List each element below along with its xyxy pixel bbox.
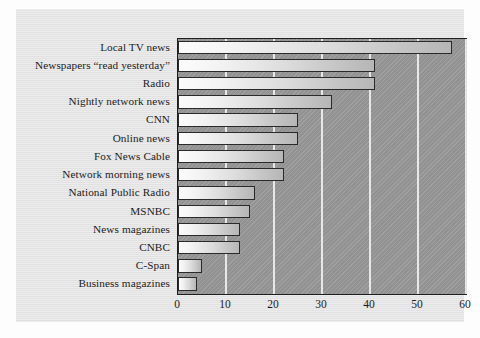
y-axis-label: Network morning news [30, 168, 170, 180]
bar-row [178, 185, 466, 203]
y-axis-label: National Public Radio [30, 186, 170, 198]
y-axis-label: Newspapers “read yesterday” [30, 59, 170, 71]
bar-row [178, 39, 466, 57]
bar-row [178, 130, 466, 148]
bar [178, 132, 298, 145]
bar-row [178, 203, 466, 221]
bar [178, 277, 197, 290]
y-axis-label: Online news [30, 132, 170, 144]
plot-area [177, 38, 467, 295]
y-axis-label: Nightly network news [30, 95, 170, 107]
bar-row [178, 75, 466, 93]
y-axis-label: C-Span [30, 259, 170, 271]
bar [178, 186, 255, 199]
bar [178, 59, 375, 72]
bar [178, 41, 452, 54]
bar [178, 223, 240, 236]
bar [178, 168, 284, 181]
y-axis-label: CNBC [30, 241, 170, 253]
bar-row [178, 148, 466, 166]
bar-row [178, 112, 466, 130]
bar-row [178, 167, 466, 185]
bar-row [178, 221, 466, 239]
x-axis-tick-labels: 0102030405060 [177, 298, 465, 318]
bar [178, 205, 250, 218]
x-axis-tick: 20 [267, 298, 279, 310]
bar-row [178, 57, 466, 75]
y-axis-category-labels: Local TV newsNewspapers “read yesterday”… [34, 38, 174, 293]
x-axis-tick: 30 [315, 298, 327, 310]
y-axis-label: Fox News Cable [30, 150, 170, 162]
bar-row [178, 94, 466, 112]
y-axis-label: MSNBC [30, 205, 170, 217]
x-axis-tick: 0 [174, 298, 180, 310]
x-axis-tick: 60 [459, 298, 471, 310]
chart-panel: Local TV newsNewspapers “read yesterday”… [16, 9, 464, 322]
bar-row [178, 239, 466, 257]
y-axis-label: CNN [30, 113, 170, 125]
x-axis-tick: 40 [363, 298, 375, 310]
bar-row [178, 276, 466, 294]
y-axis-label: News magazines [30, 223, 170, 235]
x-axis-tick: 10 [219, 298, 231, 310]
bar-row [178, 258, 466, 276]
y-axis-label: Radio [30, 77, 170, 89]
bar [178, 150, 284, 163]
chart-figure: Local TV newsNewspapers “read yesterday”… [0, 0, 480, 338]
y-axis-label: Local TV news [30, 41, 170, 53]
bar [178, 95, 332, 108]
bar [178, 241, 240, 254]
x-axis-tick: 50 [411, 298, 423, 310]
bar [178, 77, 375, 90]
bar [178, 259, 202, 272]
y-axis-label: Business magazines [30, 277, 170, 289]
bar [178, 113, 298, 126]
